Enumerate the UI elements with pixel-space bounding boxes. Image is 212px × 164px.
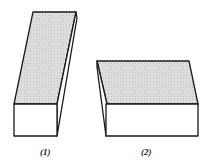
figure-1-label: (1) bbox=[40, 148, 51, 157]
box-1 bbox=[14, 12, 77, 136]
diagram-canvas bbox=[0, 0, 212, 164]
figure-2-label: (2) bbox=[141, 148, 152, 157]
box-2-front-face bbox=[106, 104, 198, 136]
box-1-front-face bbox=[14, 104, 57, 136]
box-2-top-face bbox=[97, 61, 198, 104]
box-2 bbox=[97, 61, 198, 136]
